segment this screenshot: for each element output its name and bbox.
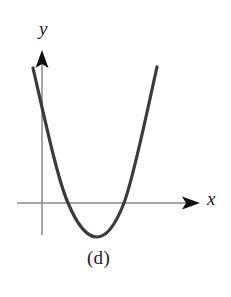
figure-caption: (d) (0, 247, 197, 269)
figure-container: y x (d) (0, 0, 231, 297)
parabola-curve (33, 67, 157, 237)
y-axis-label: y (39, 19, 47, 38)
x-axis-label: x (207, 189, 215, 208)
